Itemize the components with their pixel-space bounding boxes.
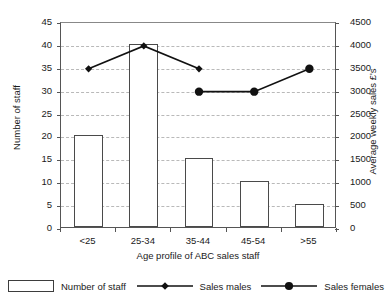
y-axis-right-tick-label: 0 <box>350 223 380 233</box>
data-point-diamond-marker <box>85 65 92 72</box>
legend-item-number-of-staff: Number of staff <box>8 280 126 292</box>
axis-tickmark <box>335 229 339 230</box>
y-axis-left-ticks: 051015202530354045 <box>30 0 52 303</box>
x-axis-tick-label: >55 <box>281 236 336 246</box>
y-axis-left-tick-label: 40 <box>30 40 52 50</box>
x-axis-tick-label: 25-34 <box>115 236 170 246</box>
line-diamond-swatch-icon <box>137 280 193 292</box>
x-axis-tick-label: 35-44 <box>170 236 225 246</box>
y-axis-left-tick-label: 30 <box>30 86 52 96</box>
x-axis-category-labels: <2525-3435-4445-54>55 <box>60 234 336 248</box>
legend-label-number-of-staff: Number of staff <box>61 281 126 292</box>
bar-swatch-icon <box>8 280 54 292</box>
y-axis-right-tick-label: 4500 <box>350 17 380 27</box>
line-series <box>61 23 337 229</box>
data-point-diamond-marker <box>140 42 147 49</box>
y-axis-left-tick-label: 0 <box>30 223 52 233</box>
legend-label-sales-females: Sales females <box>324 281 384 292</box>
data-point-circle-marker <box>305 65 313 73</box>
y-axis-left-tick-label: 15 <box>30 154 52 164</box>
chart-figure: Number of staff Average weekly sales £'s… <box>0 0 392 303</box>
y-axis-right-tick-label: 2000 <box>350 131 380 141</box>
y-axis-right-tick-label: 500 <box>350 200 380 210</box>
x-axis-title: Age profile of ABC sales staff <box>60 250 336 261</box>
y-axis-left-tick-label: 10 <box>30 177 52 187</box>
y-axis-left-tick-label: 5 <box>30 200 52 210</box>
x-axis-tick-label: <25 <box>60 236 115 246</box>
axis-tickmark <box>57 229 61 230</box>
y-axis-right-tick-label: 2500 <box>350 109 380 119</box>
legend-item-sales-males: Sales males <box>137 280 252 292</box>
y-axis-right-tick-label: 1000 <box>350 177 380 187</box>
chart-legend: Number of staff Sales males Sales female… <box>8 276 384 296</box>
y-axis-right-tick-label: 4000 <box>350 40 380 50</box>
y-axis-right-ticks: 050010001500200025003000350040004500 <box>350 0 382 303</box>
y-axis-right-tick-label: 1500 <box>350 154 380 164</box>
y-axis-left-tick-label: 25 <box>30 109 52 119</box>
y-axis-right-tick-label: 3500 <box>350 63 380 73</box>
x-axis-tick-label: 45-54 <box>226 236 281 246</box>
data-point-circle-marker <box>250 87 258 95</box>
data-point-circle-marker <box>195 87 203 95</box>
y-axis-left-tick-label: 20 <box>30 131 52 141</box>
plot-area <box>60 22 336 228</box>
y-axis-left-title: Number of staff <box>11 58 22 178</box>
legend-label-sales-males: Sales males <box>200 281 252 292</box>
y-axis-left-tick-label: 35 <box>30 63 52 73</box>
y-axis-left-tick-label: 45 <box>30 17 52 27</box>
data-point-diamond-marker <box>195 65 202 72</box>
line-circle-swatch-icon <box>261 280 317 292</box>
legend-item-sales-females: Sales females <box>261 280 384 292</box>
y-axis-right-tick-label: 3000 <box>350 86 380 96</box>
